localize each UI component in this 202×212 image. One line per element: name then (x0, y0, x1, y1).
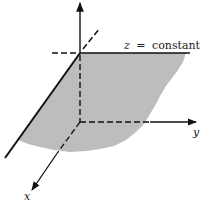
plane-edge-extension-up (83, 28, 100, 49)
x-axis (32, 152, 58, 190)
plane-label-constant: constant (152, 39, 201, 52)
constant-z-plane (5, 53, 186, 158)
plane-label-variable: z (123, 39, 130, 52)
z-constant-plane-diagram: z = constant y x (0, 0, 202, 212)
plane-label: z = constant (123, 39, 201, 52)
y-axis-label: y (192, 126, 200, 139)
x-axis-label: x (24, 190, 31, 203)
plane-label-equals: = (136, 39, 145, 52)
